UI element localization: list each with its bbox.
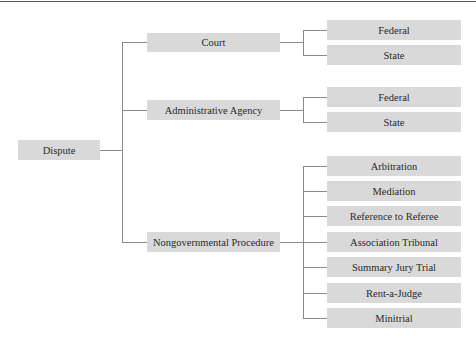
node-reference-to-referee: Reference to Referee — [327, 206, 461, 226]
node-association-tribunal: Association Tribunal — [327, 232, 461, 252]
connector — [280, 242, 303, 243]
root-node-dispute: Dispute — [18, 140, 100, 160]
node-court-state: State — [327, 45, 461, 65]
node-label: Federal — [378, 92, 410, 103]
connector — [303, 30, 304, 56]
connector — [303, 267, 327, 268]
node-label: State — [384, 50, 405, 61]
node-label: Court — [202, 37, 226, 48]
node-label: Association Tribunal — [350, 237, 438, 248]
node-agency-state: State — [327, 112, 461, 132]
connector-trunk — [122, 42, 123, 243]
node-administrative-agency: Administrative Agency — [147, 100, 280, 120]
node-label: Minitrial — [375, 313, 412, 324]
node-court: Court — [147, 33, 280, 52]
node-court-federal: Federal — [327, 20, 461, 40]
node-rent-a-judge: Rent-a-Judge — [327, 283, 461, 303]
connector — [303, 166, 327, 167]
node-label: Rent-a-Judge — [366, 288, 422, 299]
node-label: Mediation — [372, 186, 415, 197]
connector — [122, 242, 147, 243]
node-label: Arbitration — [371, 161, 418, 172]
node-minitrial: Minitrial — [327, 308, 461, 328]
connector — [303, 318, 327, 319]
connector — [303, 293, 327, 294]
node-agency-federal: Federal — [327, 87, 461, 107]
connector — [303, 55, 327, 56]
node-label: Administrative Agency — [165, 105, 263, 116]
connector — [280, 110, 303, 111]
top-rule — [0, 1, 476, 2]
node-label: Dispute — [43, 145, 76, 156]
connector — [100, 150, 122, 151]
node-arbitration: Arbitration — [327, 156, 461, 176]
node-label: Nongovernmental Procedure — [153, 237, 274, 248]
connector — [303, 242, 327, 243]
connector — [122, 42, 147, 43]
connector — [303, 30, 327, 31]
connector — [303, 191, 327, 192]
connector — [303, 97, 304, 123]
node-label: Summary Jury Trial — [352, 262, 436, 273]
node-label: Federal — [378, 25, 410, 36]
connector — [303, 97, 327, 98]
connector — [122, 110, 147, 111]
connector — [280, 42, 303, 43]
node-mediation: Mediation — [327, 181, 461, 201]
connector — [303, 216, 327, 217]
connector — [303, 122, 327, 123]
node-summary-jury-trial: Summary Jury Trial — [327, 257, 461, 277]
node-label: State — [384, 117, 405, 128]
node-nongovernmental-procedure: Nongovernmental Procedure — [147, 232, 280, 252]
node-label: Reference to Referee — [350, 211, 439, 222]
